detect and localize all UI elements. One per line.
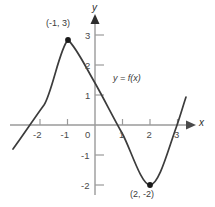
x-axis-label: x xyxy=(199,118,204,128)
x-tick-label-neg1: -1 xyxy=(61,130,69,140)
y-axis-label: y xyxy=(92,3,97,13)
x-axis-arrow-icon xyxy=(186,121,196,130)
function-graph-figure: -2 -1 0 1 2 3 3 2 1 -1 -2 y x y = f(x) (… xyxy=(0,0,215,207)
y-tick-label-neg2: -2 xyxy=(81,181,89,191)
minimum-point-label: (2, -2) xyxy=(130,190,154,199)
function-curve xyxy=(13,40,186,185)
y-tick-label-3: 3 xyxy=(85,31,90,41)
y-axis-arrow-icon xyxy=(91,14,100,24)
x-tick-label-neg2: -2 xyxy=(33,130,41,140)
x-tick-label-3: 3 xyxy=(174,130,179,140)
x-axis-ticks xyxy=(40,119,178,125)
maximum-point-label: (-1, 3) xyxy=(46,19,70,28)
y-tick-label-1: 1 xyxy=(85,91,90,101)
x-tick-label-2: 2 xyxy=(147,130,152,140)
x-tick-label-zero: 0 xyxy=(85,130,90,140)
x-tick-label-1: 1 xyxy=(119,130,124,140)
y-tick-label-neg1: -1 xyxy=(81,151,89,161)
curve-equation-label: y = f(x) xyxy=(113,74,141,83)
y-tick-label-2: 2 xyxy=(85,61,90,71)
graph-canvas xyxy=(0,0,215,207)
y-axis-ticks xyxy=(95,35,104,185)
maximum-point-marker xyxy=(65,37,71,43)
minimum-point-marker xyxy=(147,182,153,188)
